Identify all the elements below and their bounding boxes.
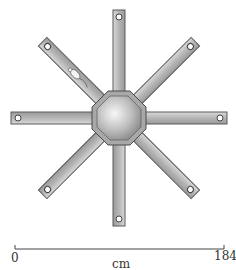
scale-unit-label: cm <box>112 257 130 270</box>
arm-end-hole <box>116 14 122 20</box>
radial-arm-maze-diagram <box>0 0 236 270</box>
maze-arm-east <box>137 112 227 124</box>
scale-start-label: 0 <box>11 251 19 265</box>
scale-end-label: 184 <box>214 249 236 263</box>
maze-arm-west <box>11 112 101 124</box>
arm-end-hole <box>116 216 122 222</box>
scale-bar <box>15 245 224 249</box>
maze-center-platform <box>92 91 146 145</box>
maze-arm-south <box>113 136 125 226</box>
arm-end-hole <box>15 115 21 121</box>
maze-arm-north <box>113 10 125 100</box>
arm-end-hole <box>217 115 223 121</box>
